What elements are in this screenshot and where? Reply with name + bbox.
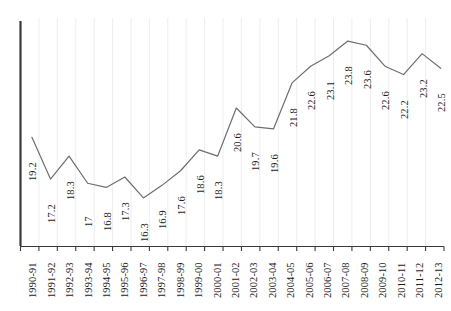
data-series-line	[32, 41, 441, 198]
x-axis-category-label: 2011-12	[415, 263, 426, 298]
x-axis-category-label: 2001-02	[231, 262, 242, 298]
x-axis-category-label: 1991-92	[47, 262, 58, 298]
x-axis-category-label: 2000-01	[213, 262, 224, 298]
data-value-label: 21.8	[289, 108, 300, 127]
x-axis-category-label: 2009-10	[378, 262, 389, 298]
data-value-label: 16.3	[140, 223, 151, 242]
plot-area	[32, 41, 441, 198]
x-axis-category-label: 1994-95	[102, 262, 113, 298]
data-value-label: 17	[84, 217, 95, 228]
x-axis-category-label: 2006-07	[323, 262, 334, 298]
data-value-label: 22.6	[381, 91, 392, 110]
x-axis-category-label: 2005-06	[305, 262, 316, 298]
x-axis-category-label: 1990-91	[28, 262, 39, 298]
line-chart: 19.217.218.31716.817.316.316.917.618.618…	[0, 0, 451, 311]
data-value-label: 17.3	[121, 202, 132, 221]
x-axis-category-label: 1999-00	[194, 262, 205, 298]
data-value-label: 18.6	[196, 175, 207, 194]
x-axis-category-label: 2003-04	[268, 262, 279, 298]
x-axis-category-label: 1996-97	[139, 262, 150, 298]
data-value-label: 17.2	[47, 204, 58, 223]
data-value-label: 16.8	[103, 213, 114, 232]
data-value-label: 22.5	[437, 93, 448, 112]
data-value-label: 19.7	[251, 152, 262, 171]
data-value-label: 19.6	[270, 154, 281, 173]
data-value-label: 23.1	[326, 81, 337, 100]
data-value-label: 22.2	[400, 100, 411, 119]
data-value-label: 18.3	[66, 181, 77, 200]
x-axis-category-label: 2004-05	[286, 262, 297, 298]
data-value-label: 19.2	[28, 162, 39, 181]
data-value-label: 23.2	[419, 79, 430, 98]
x-axis-category-label: 2010-11	[397, 263, 408, 298]
data-value-label: 22.6	[307, 91, 318, 110]
x-axis-category-label: 2012-13	[434, 262, 445, 298]
x-axis-category-label: 1997-98	[157, 262, 168, 298]
data-value-label: 23.8	[344, 66, 355, 85]
x-axis-category-label: 2007-08	[341, 262, 352, 298]
data-value-label: 16.9	[158, 211, 169, 230]
x-axis-category-label: 1993-94	[84, 262, 95, 298]
x-axis-category-label: 2008-09	[360, 262, 371, 298]
x-axis-category-label: 1998-99	[176, 262, 187, 298]
data-value-label: 17.6	[177, 196, 188, 215]
data-value-label: 20.6	[233, 133, 244, 152]
data-value-label: 23.6	[363, 70, 374, 89]
x-axis-category-label: 1995-96	[120, 262, 131, 298]
x-axis-ticks	[21, 247, 445, 252]
x-axis-category-label: 1992-93	[65, 262, 76, 298]
data-value-label: 18.3	[214, 181, 225, 200]
x-axis-category-label: 2002-03	[249, 262, 260, 298]
